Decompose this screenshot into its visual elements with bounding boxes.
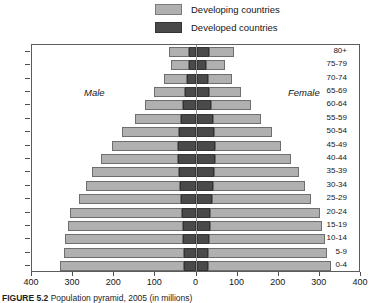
bar-female-developing [206, 60, 225, 70]
bar-female-developing [213, 114, 261, 124]
pyramid-row [32, 248, 359, 258]
bar-female-developed [197, 127, 215, 137]
bar-male-developed [178, 154, 197, 164]
y-axis-tick [25, 91, 30, 92]
y-axis-tick [25, 51, 30, 52]
y-axis-tick [25, 198, 30, 199]
x-axis-label: 100 [134, 278, 174, 287]
bar-female-developed [197, 74, 208, 84]
x-axis-tick [237, 272, 238, 276]
pyramid-row [32, 100, 359, 110]
y-axis-label-5-9: 5-9 [335, 248, 347, 256]
pyramid-row [32, 234, 359, 244]
x-axis-tick [113, 272, 114, 276]
legend-item-developing: Developing countries [155, 3, 280, 16]
bar-male-developed [183, 221, 197, 231]
bar-male-developed [183, 234, 196, 244]
bar-female-developing [214, 127, 272, 137]
x-axis-tick [154, 272, 155, 276]
bar-female-developed [197, 114, 213, 124]
bar-female-developing [208, 74, 233, 84]
y-axis-label-70-74: 70-74 [327, 74, 347, 82]
pyramid-row [32, 221, 359, 231]
bar-female-developing [214, 167, 300, 177]
y-axis-label-55-59: 55-59 [327, 114, 347, 122]
bar-male-developed [183, 100, 197, 110]
y-axis-tick [25, 225, 30, 226]
bar-female-developing [208, 261, 331, 271]
bar-male-developed [179, 167, 197, 177]
bar-male-developing [68, 221, 183, 231]
bar-female-developed [197, 167, 214, 177]
pyramid-row [32, 154, 359, 164]
x-axis-label: 200 [258, 278, 298, 287]
y-axis-label-60-64: 60-64 [327, 100, 347, 108]
figure-caption: FIGURE 5.2 Population pyramid, 2005 (in … [2, 293, 381, 303]
x-axis-label: 300 [52, 278, 92, 287]
x-axis-label: 100 [217, 278, 257, 287]
bar-male-developing [164, 74, 187, 84]
x-axis-label: 0 [176, 278, 216, 287]
legend-swatch-developing-icon [155, 4, 182, 15]
bar-female-developed [197, 234, 209, 244]
bar-male-developed [189, 47, 196, 57]
bar-male-developed [185, 87, 197, 97]
bar-female-developed [197, 87, 210, 97]
bar-male-developed [181, 114, 197, 124]
bar-female-developed [197, 141, 215, 151]
bar-male-developing [65, 234, 183, 244]
x-axis-tick [196, 272, 197, 276]
y-axis-label-10-14: 10-14 [327, 234, 347, 242]
bar-male-developing [122, 127, 179, 137]
bar-female-developed [197, 194, 212, 204]
figure-caption-text: Population pyramid, 2005 (in millions) [51, 293, 193, 303]
bar-female-developing [210, 221, 323, 231]
y-axis-tick [25, 238, 30, 239]
x-axis-label: 400 [11, 278, 51, 287]
pyramid-row [32, 74, 359, 84]
bar-female-developing [209, 234, 325, 244]
bar-female-developing [208, 248, 326, 258]
pyramid-row [32, 127, 359, 137]
chart-legend: Developing countries Developed countries [0, 2, 381, 36]
y-axis-label-40-44: 40-44 [327, 154, 347, 162]
y-axis-label-45-49: 45-49 [327, 141, 347, 149]
bar-female-developing [210, 208, 319, 218]
y-axis-tick [25, 212, 30, 213]
bar-female-developed [197, 154, 215, 164]
y-axis-label-35-39: 35-39 [327, 167, 347, 175]
legend-swatch-developed-icon [155, 22, 182, 33]
bar-male-developing [64, 248, 184, 258]
bar-male-developed [189, 60, 197, 70]
bar-male-developed [182, 208, 197, 218]
pyramid-row [32, 194, 359, 204]
bar-male-developing [171, 60, 188, 70]
bar-male-developing [101, 154, 178, 164]
y-axis-label-30-34: 30-34 [327, 181, 347, 189]
y-axis-tick [25, 158, 30, 159]
y-axis-tick [25, 78, 30, 79]
bar-female-developed [197, 100, 212, 110]
bar-male-developed [178, 141, 196, 151]
bar-male-developed [184, 261, 196, 271]
legend-label-developing: Developing countries [191, 4, 280, 15]
pyramid-row [32, 181, 359, 191]
bar-female-developing [215, 141, 282, 151]
bar-female-developing [213, 181, 305, 191]
chart-plot-area [32, 45, 359, 271]
bar-male-developed [180, 181, 196, 191]
y-axis-tick [25, 265, 30, 266]
y-axis-tick [25, 252, 30, 253]
y-axis-label-25-29: 25-29 [327, 194, 347, 202]
x-axis-tick [31, 272, 32, 276]
pyramid-row [32, 114, 359, 124]
x-axis-tick [360, 272, 361, 276]
pyramid-row [32, 167, 359, 177]
bar-male-developing [60, 261, 184, 271]
y-axis-label-15-19: 15-19 [327, 221, 347, 229]
chart-plot-frame [31, 44, 360, 272]
y-axis-tick [25, 171, 30, 172]
bar-male-developed [179, 127, 196, 137]
annotation-female: Female [288, 87, 320, 98]
bar-female-developing [215, 154, 291, 164]
